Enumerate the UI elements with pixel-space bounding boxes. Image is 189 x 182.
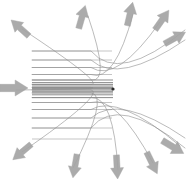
nucleus-group bbox=[111, 87, 114, 90]
scattering-diagram-canvas bbox=[0, 0, 189, 182]
nucleus-dot bbox=[111, 87, 114, 90]
scattering-figure bbox=[0, 0, 189, 182]
